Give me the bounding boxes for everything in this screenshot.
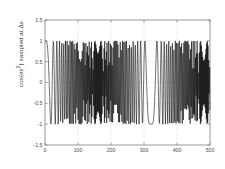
y-tick-label: 0.5 [35, 59, 42, 65]
x-tick-label: 0 [44, 147, 47, 153]
plot-svg: -1.5-1-0.500.511.5 0100200300400500 [0, 0, 225, 169]
x-tick-label: 500 [206, 147, 215, 153]
y-tick-labels: -1.5-1-0.500.511.5 [34, 17, 43, 148]
x-tick-label: 400 [173, 147, 182, 153]
figure-canvas: cos(ex2) sampled at Δx -1.5-1-0.500.511.… [0, 0, 225, 169]
plot-area: -1.5-1-0.500.511.5 0100200300400500 [34, 17, 215, 153]
y-tick-label: 1.5 [35, 17, 42, 23]
x-tick-label: 200 [107, 147, 116, 153]
y-tick-label: -0.5 [34, 100, 43, 106]
y-tick-label: 1 [40, 38, 43, 44]
x-tick-labels: 0100200300400500 [44, 147, 215, 153]
y-tick-label: -1 [38, 121, 43, 127]
x-tick-label: 300 [140, 147, 149, 153]
x-tick-label: 100 [74, 147, 83, 153]
y-tick-label: 0 [40, 79, 43, 85]
y-tick-label: -1.5 [34, 142, 43, 148]
